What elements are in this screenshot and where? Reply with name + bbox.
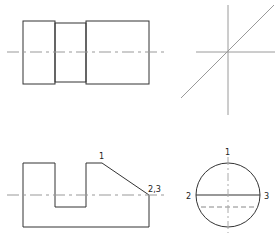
label-side-point-3: 3: [264, 191, 269, 201]
top-view: [7, 163, 165, 227]
side-view: [196, 157, 260, 233]
miter-line: [181, 5, 275, 115]
front-view: [7, 21, 165, 84]
label-point-1: 1: [99, 151, 104, 161]
label-side-point-1: 1: [225, 147, 230, 157]
label-point-2-3: 2,3: [148, 184, 161, 194]
label-side-point-2: 2: [186, 191, 191, 201]
drawing-canvas: 1 2,3 1 2 3: [0, 0, 275, 237]
